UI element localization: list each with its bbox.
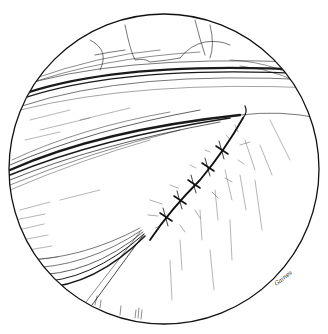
bottom-ticks: [95, 258, 302, 319]
left-wedge: [10, 110, 318, 190]
lower-left-wedge: [20, 228, 145, 305]
tissue-drawing: [10, 20, 320, 319]
illustration: Gaines: [0, 0, 328, 334]
upper-band: [15, 50, 320, 110]
artist-signature: Gaines: [272, 269, 293, 287]
